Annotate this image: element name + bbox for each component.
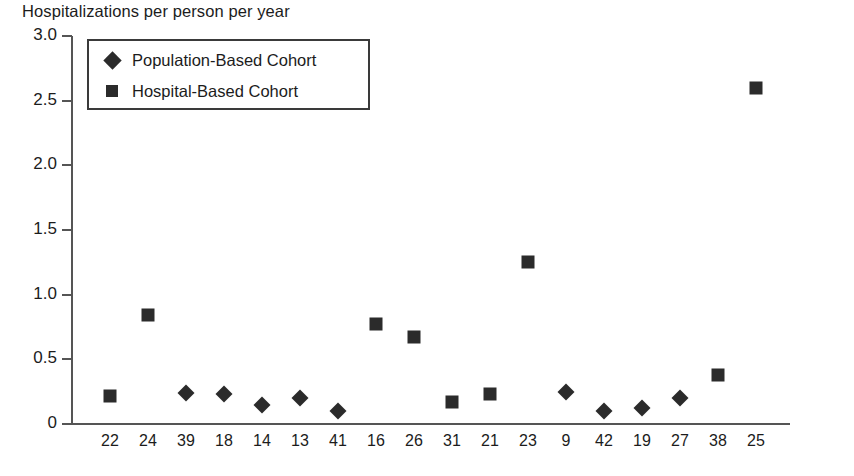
diamond-marker-icon <box>101 54 123 67</box>
y-axis-tick <box>62 294 72 296</box>
y-axis-tick <box>62 164 72 166</box>
x-axis-tick-label: 27 <box>671 432 689 450</box>
data-point-square <box>712 368 725 381</box>
legend-item-label: Population-Based Cohort <box>132 51 316 70</box>
chart-legend: Population-Based CohortHospital-Based Co… <box>87 39 370 110</box>
legend-item: Population-Based Cohort <box>101 47 316 73</box>
y-axis-tick <box>62 358 72 360</box>
x-axis-tick-label: 25 <box>747 432 765 450</box>
chart-title: Hospitalizations per person per year <box>22 2 290 21</box>
x-axis-tick-label: 24 <box>139 432 157 450</box>
y-axis-tick <box>62 100 72 102</box>
x-axis-tick-label: 19 <box>633 432 651 450</box>
y-axis-tick <box>62 35 72 37</box>
data-point-square <box>522 256 535 269</box>
y-axis-tick <box>62 423 72 425</box>
x-axis-tick-label: 38 <box>709 432 727 450</box>
x-axis-tick-label: 41 <box>329 432 347 450</box>
x-axis-tick-label: 18 <box>215 432 233 450</box>
x-axis-tick-label: 31 <box>443 432 461 450</box>
data-point-square <box>484 388 497 401</box>
y-axis-tick-label: 0.5 <box>33 348 57 368</box>
data-point-square <box>104 389 117 402</box>
legend-item-label: Hospital-Based Cohort <box>132 82 298 101</box>
y-axis-tick-label: 1.5 <box>33 219 57 239</box>
data-point-square <box>446 396 459 409</box>
data-point-square <box>750 81 763 94</box>
x-axis-tick-label: 26 <box>405 432 423 450</box>
x-axis-tick-label: 21 <box>481 432 499 450</box>
square-marker-icon <box>101 85 123 97</box>
x-axis-tick-label: 22 <box>101 432 119 450</box>
y-axis-tick-label: 2.0 <box>33 154 57 174</box>
data-point-square <box>142 309 155 322</box>
data-point-square <box>408 331 421 344</box>
x-axis-tick-label: 42 <box>595 432 613 450</box>
x-axis-tick-label: 16 <box>367 432 385 450</box>
chart-root: Hospitalizations per person per year 3.0… <box>0 0 854 476</box>
x-axis-tick-label: 9 <box>562 432 571 450</box>
x-axis-tick-label: 23 <box>519 432 537 450</box>
y-axis-tick-label: 0 <box>48 413 57 433</box>
y-axis-tick-label: 3.0 <box>33 25 57 45</box>
legend-item: Hospital-Based Cohort <box>101 78 298 104</box>
data-point-square <box>370 318 383 331</box>
y-axis-tick-label: 2.5 <box>33 90 57 110</box>
x-axis-tick-label: 14 <box>253 432 271 450</box>
x-axis-tick-label: 13 <box>291 432 309 450</box>
y-axis-tick <box>62 229 72 231</box>
x-axis-tick-label: 39 <box>177 432 195 450</box>
y-axis-tick-label: 1.0 <box>33 284 57 304</box>
